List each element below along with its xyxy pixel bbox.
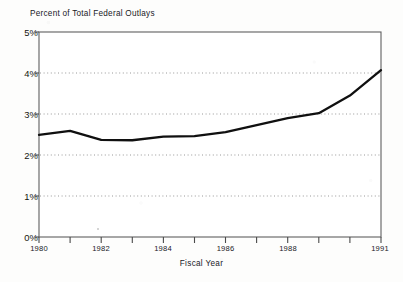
x-axis-title: Fiscal Year bbox=[0, 259, 403, 268]
x-axis-label-1982: 1982 bbox=[81, 244, 121, 253]
x-axis-label-1988: 1988 bbox=[268, 244, 308, 253]
x-axis-label-1986: 1986 bbox=[206, 244, 246, 253]
x-axis-label-1984: 1984 bbox=[143, 244, 183, 253]
y-axis-label-3pct: 3% bbox=[10, 109, 38, 120]
x-axis-label-1980: 1980 bbox=[19, 244, 59, 253]
y-axis-label-1pct: 1% bbox=[10, 191, 38, 202]
chart-figure: Percent of Total Federal Outlays bbox=[0, 0, 403, 282]
y-axis-label-5pct: 5% bbox=[10, 27, 38, 38]
scan-speck bbox=[97, 228, 99, 230]
y-axis-label-2pct: 2% bbox=[10, 150, 38, 161]
plot-area bbox=[0, 0, 403, 282]
y-axis-label-4pct: 4% bbox=[10, 68, 38, 79]
x-axis-label-1991: 1991 bbox=[360, 244, 400, 253]
y-axis-label-0pct: 0% bbox=[10, 232, 38, 243]
x-axis-ticks bbox=[39, 237, 381, 243]
